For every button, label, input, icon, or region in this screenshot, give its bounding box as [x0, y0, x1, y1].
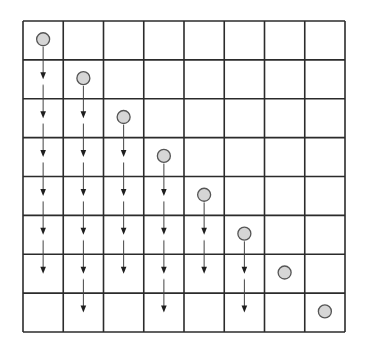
arrow-down-icon: [121, 189, 127, 196]
circle-node-icon: [157, 149, 170, 162]
circle-node-icon: [238, 227, 251, 240]
arrow-down-icon: [40, 189, 46, 196]
arrow-down-icon: [40, 72, 46, 79]
arrow-down-icon: [40, 150, 46, 157]
arrow-down-icon: [242, 306, 248, 313]
circle-node-icon: [198, 188, 211, 201]
circle-node-icon: [278, 266, 291, 279]
circle-node-icon: [117, 111, 130, 124]
arrow-down-icon: [81, 150, 87, 157]
arrow-down-icon: [81, 306, 87, 313]
arrow-down-icon: [81, 111, 87, 118]
arrow-down-icon: [121, 150, 127, 157]
arrow-column-1: [40, 47, 46, 274]
grid-diagram: [0, 0, 369, 352]
arrow-down-icon: [40, 267, 46, 274]
arrow-down-icon: [81, 189, 87, 196]
arrow-down-icon: [40, 111, 46, 118]
arrow-down-icon: [40, 228, 46, 235]
arrow-down-icon: [81, 228, 87, 235]
arrow-down-icon: [81, 267, 87, 274]
circle-node-icon: [37, 33, 50, 46]
arrow-down-icon: [161, 306, 167, 313]
arrow-column-4: [161, 164, 167, 313]
arrow-column-2: [81, 86, 87, 313]
circle-node-icon: [318, 305, 331, 318]
arrow-down-icon: [201, 267, 207, 274]
arrow-down-icon: [121, 228, 127, 235]
arrow-down-icon: [201, 228, 207, 235]
arrow-down-icon: [161, 228, 167, 235]
arrow-column-5: [201, 202, 207, 273]
arrow-column-3: [121, 125, 127, 274]
arrow-down-icon: [161, 267, 167, 274]
arrow-down-icon: [161, 189, 167, 196]
arrow-column-6: [242, 241, 248, 312]
arrow-down-icon: [242, 267, 248, 274]
grid-lines: [23, 21, 345, 332]
circle-node-icon: [77, 72, 90, 85]
arrow-down-icon: [121, 267, 127, 274]
